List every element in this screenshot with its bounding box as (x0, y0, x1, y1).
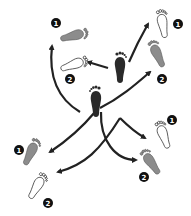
footwork-diagram: 1 2 1 2 1 2 1 2 (0, 0, 191, 216)
arrow-right-1 (120, 118, 145, 138)
step2-foot-icon (139, 147, 164, 176)
target-back-left: 1 2 (51, 18, 90, 84)
start-feet (89, 52, 127, 118)
step2-foot-icon (147, 38, 169, 68)
step2-foot-icon (26, 171, 50, 201)
step1-foot-icon (21, 137, 43, 167)
step2-foot-icon (59, 55, 89, 75)
arrow-left-1 (50, 112, 95, 152)
left-foot-start-icon (89, 86, 101, 118)
arrow-forward-right-2 (100, 72, 150, 108)
right-foot-start-icon (115, 52, 127, 84)
arrow-left-short (88, 62, 108, 68)
arrow-left-2 (58, 118, 120, 172)
target-forward-right: 1 2 (147, 9, 183, 84)
target-left: 1 2 (14, 137, 53, 208)
arrow-forward-right-1 (129, 24, 148, 62)
svg-text:1: 1 (176, 21, 181, 29)
svg-text:2: 2 (46, 200, 51, 208)
step1-foot-icon (59, 27, 89, 45)
svg-text:2: 2 (142, 174, 147, 182)
svg-text:1: 1 (54, 20, 59, 28)
svg-text:1: 1 (170, 117, 175, 125)
svg-text:2: 2 (68, 76, 73, 84)
target-right: 1 2 (139, 115, 177, 182)
step1-foot-icon (156, 9, 172, 39)
svg-text:1: 1 (17, 147, 22, 155)
svg-text:2: 2 (160, 76, 165, 84)
